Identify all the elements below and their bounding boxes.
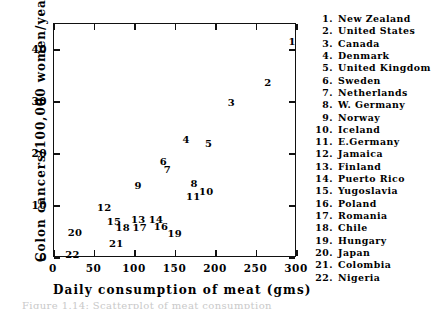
legend-item-number: 4.	[313, 50, 333, 62]
legend-item-number: 5.	[313, 62, 333, 74]
y-axis-tick	[54, 101, 60, 102]
legend-item: 1.New Zealand	[313, 13, 438, 25]
y-axis-tick	[289, 49, 295, 50]
x-axis-tick	[53, 24, 54, 30]
legend-item-label: Finland	[333, 161, 381, 173]
legend-item-label: Yugoslavia	[333, 185, 398, 197]
y-axis-tick	[289, 257, 295, 258]
x-axis-tick-label: 0	[49, 262, 57, 274]
legend-item-label: Norway	[333, 112, 380, 124]
legend-item-number: 21.	[313, 259, 333, 271]
x-axis-tick	[134, 24, 135, 30]
legend-item: 10.Iceland	[313, 124, 438, 136]
data-point-16: 16	[154, 222, 169, 232]
legend-item-number: 16.	[313, 198, 333, 210]
legend-item: 11.E.Germany	[313, 136, 438, 148]
legend-item-number: 1.	[313, 13, 333, 25]
legend-item-label: United Kingdom	[333, 62, 431, 74]
legend-item-number: 13.	[313, 161, 333, 173]
legend-item-label: Colombia	[333, 259, 391, 271]
x-axis-title: Daily consumption of meat (gms)	[53, 283, 296, 297]
legend-item-number: 19.	[313, 235, 333, 247]
legend-item-number: 10.	[313, 124, 333, 136]
legend-item-label: Sweden	[333, 75, 381, 87]
y-axis-tick	[54, 49, 60, 50]
data-point-12: 12	[97, 203, 112, 213]
x-axis-tick	[215, 250, 216, 256]
legend-item: 8.W. Germany	[313, 99, 438, 111]
data-point-18: 18	[116, 223, 131, 233]
x-axis-tick-label: 200	[203, 262, 226, 274]
legend-item: 16.Poland	[313, 198, 438, 210]
legend-item-number: 18.	[313, 222, 333, 234]
x-axis-tick-label: 150	[163, 262, 186, 274]
legend-item: 6.Sweden	[313, 75, 438, 87]
x-axis-tick-label: 300	[284, 262, 307, 274]
x-axis-tick	[175, 24, 176, 30]
x-axis-tick	[256, 24, 257, 30]
y-axis-tick	[289, 101, 295, 102]
figure-caption: Figure 1.14: Scatterplot of meat consump…	[22, 300, 272, 309]
legend-item-number: 20.	[313, 247, 333, 259]
y-axis-tick	[54, 205, 60, 206]
data-point-17: 17	[133, 223, 148, 233]
data-point-1: 1	[288, 37, 295, 47]
legend-item-number: 22.	[313, 272, 333, 284]
data-point-5: 5	[205, 139, 212, 149]
legend-item-number: 15.	[313, 185, 333, 197]
legend-item: 2.United States	[313, 25, 438, 37]
legend-item: 14.Puerto Rico	[313, 173, 438, 185]
y-axis-tick-label: 20	[20, 147, 47, 159]
x-axis-tick	[94, 250, 95, 256]
y-axis-tick	[54, 257, 60, 258]
data-point-19: 19	[167, 229, 182, 239]
legend-item: 19.Hungary	[313, 235, 438, 247]
x-axis-tick	[134, 250, 135, 256]
legend-item-number: 11.	[313, 136, 333, 148]
plot-area: 12345678910111213141516171819202122	[53, 23, 296, 257]
y-axis-tick-label: 40	[20, 43, 47, 55]
figure-container: Colon cancers/100,000 women/year Daily c…	[0, 0, 438, 309]
data-point-9: 9	[135, 181, 142, 191]
data-point-8: 8	[190, 179, 197, 189]
x-axis-tick	[175, 250, 176, 256]
legend-item-number: 3.	[313, 38, 333, 50]
legend-item-label: Nigeria	[333, 272, 380, 284]
x-axis-tick	[53, 250, 54, 256]
legend-item: 21.Colombia	[313, 259, 438, 271]
legend-item: 12.Jamaica	[313, 148, 438, 160]
legend-item-label: Japan	[333, 247, 370, 259]
x-axis-tick	[296, 24, 297, 30]
legend-item-label: Iceland	[333, 124, 380, 136]
legend-item: 18.Chile	[313, 222, 438, 234]
legend-item-label: W. Germany	[333, 99, 405, 111]
legend: 1.New Zealand2.United States3.Canada4.De…	[313, 13, 438, 284]
legend-item-label: United States	[333, 25, 415, 37]
y-axis-tick-label: 10	[20, 199, 47, 211]
legend-item: 13.Finland	[313, 161, 438, 173]
x-axis-tick	[296, 250, 297, 256]
y-axis-tick	[289, 153, 295, 154]
legend-item-label: Denmark	[333, 50, 390, 62]
data-point-7: 7	[164, 165, 171, 175]
legend-item-number: 14.	[313, 173, 333, 185]
legend-item-label: Jamaica	[333, 148, 383, 160]
x-axis-tick-label: 50	[86, 262, 102, 274]
legend-item-label: New Zealand	[333, 13, 411, 25]
legend-item: 7.Netherlands	[313, 87, 438, 99]
data-point-22: 22	[65, 250, 80, 260]
legend-item-number: 2.	[313, 25, 333, 37]
legend-item: 17.Romania	[313, 210, 438, 222]
legend-item-label: Romania	[333, 210, 388, 222]
legend-item-label: Hungary	[333, 235, 387, 247]
data-point-20: 20	[68, 228, 83, 238]
legend-item-number: 6.	[313, 75, 333, 87]
legend-item-number: 9.	[313, 112, 333, 124]
legend-item: 5.United Kingdom	[313, 62, 438, 74]
data-point-3: 3	[228, 98, 235, 108]
data-point-21: 21	[109, 239, 124, 249]
legend-item: 22.Nigeria	[313, 272, 438, 284]
y-axis-tick	[54, 153, 60, 154]
legend-item-label: E.Germany	[333, 136, 400, 148]
data-point-11: 11	[186, 192, 201, 202]
